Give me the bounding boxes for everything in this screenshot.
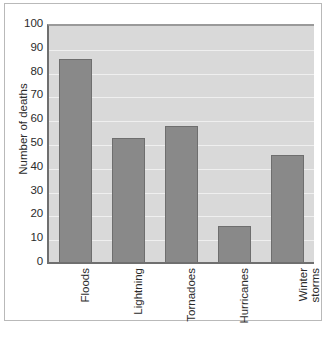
x-tick-label-line: Hurricanes — [239, 268, 251, 338]
bar — [112, 138, 145, 264]
x-tick-label-line: Winter — [298, 268, 310, 338]
x-tick-label: Lightning — [133, 268, 145, 338]
x-tick-label-line: Lightning — [133, 268, 145, 338]
x-axis-line — [47, 262, 314, 264]
x-tick-label-line: storms — [309, 268, 321, 338]
x-tick-label-line: Tornadoes — [186, 268, 198, 338]
x-tick-label: Winterstorms — [298, 268, 321, 338]
x-tick-label: Floods — [80, 268, 92, 338]
bar-chart-figure: 0102030405060708090100 Number of deaths … — [0, 0, 333, 338]
bar — [218, 226, 251, 264]
x-tick-label: Hurricanes — [239, 268, 251, 338]
bar — [271, 155, 304, 264]
y-tick-label: 100 — [3, 18, 43, 29]
gridline — [49, 50, 314, 51]
y-tick-label: 90 — [3, 42, 43, 53]
y-tick-label: 10 — [3, 232, 43, 243]
x-tick-label-line: Floods — [80, 268, 92, 338]
y-tick-label: 20 — [3, 208, 43, 219]
bar — [165, 126, 198, 264]
y-axis-title: Number of deaths — [17, 59, 29, 199]
plot-area — [47, 24, 314, 264]
x-tick-label: Tornadoes — [186, 268, 198, 338]
y-tick-label: 0 — [3, 256, 43, 267]
bar — [59, 59, 92, 264]
